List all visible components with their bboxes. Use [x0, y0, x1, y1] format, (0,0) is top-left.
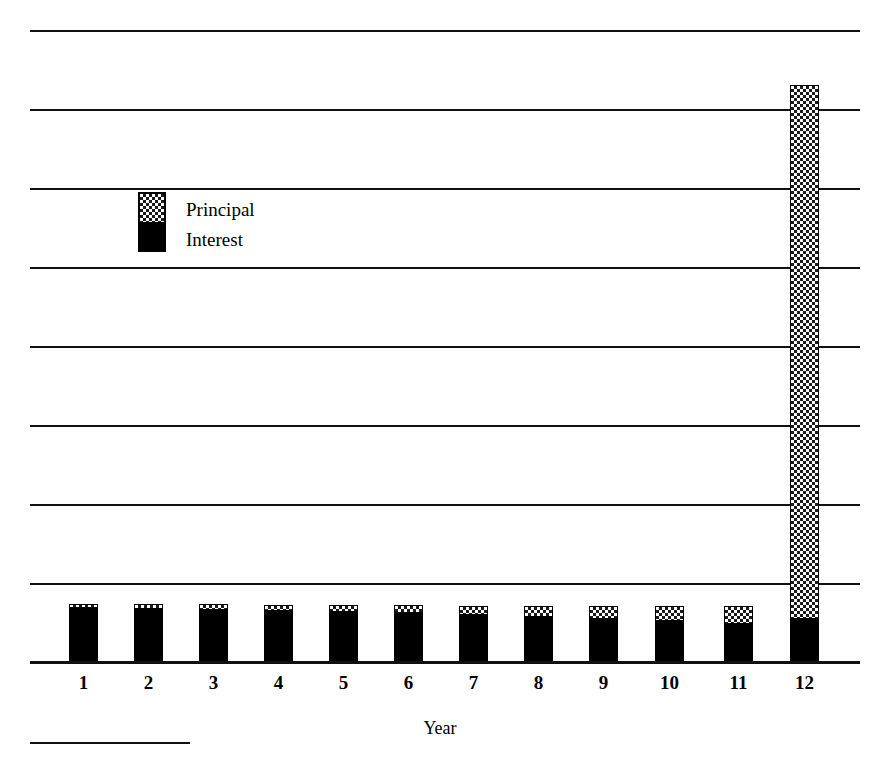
legend-swatch-principal-icon [140, 194, 164, 222]
x-tick-label-9: 9 [579, 672, 628, 694]
x-tick-label-12: 12 [780, 672, 829, 694]
x-tick-label-2: 2 [124, 672, 173, 694]
bar-segment-interest [790, 618, 819, 661]
bar-segment-interest [69, 607, 98, 661]
bar-segment-principal [655, 606, 684, 621]
bar-segment-interest [199, 609, 228, 661]
bar-year-8[interactable] [524, 606, 553, 661]
bar-year-4[interactable] [264, 605, 293, 661]
bar-segment-principal [790, 85, 819, 619]
legend-label-principal: Principal [186, 200, 255, 220]
bar-segment-interest [459, 614, 488, 661]
footnote-separator-rule [30, 742, 190, 744]
gridline-7 [30, 109, 860, 111]
bar-segment-interest [264, 610, 293, 661]
x-tick-label-11: 11 [714, 672, 763, 694]
gridline-6 [30, 188, 860, 190]
x-tick-label-7: 7 [449, 672, 498, 694]
x-tick-label-3: 3 [189, 672, 238, 694]
bar-segment-interest [329, 611, 358, 661]
chart-figure: 1 2 3 4 5 6 7 8 9 10 11 12 Year Principa… [0, 0, 888, 774]
x-tick-label-8: 8 [514, 672, 563, 694]
bar-segment-interest [524, 616, 553, 661]
bar-year-5[interactable] [329, 605, 358, 661]
legend-label-interest: Interest [186, 230, 243, 250]
bar-year-9[interactable] [589, 606, 618, 661]
gridline-3 [30, 425, 860, 427]
gridline-8 [30, 30, 860, 32]
bar-year-6[interactable] [394, 605, 423, 661]
bar-segment-interest [655, 620, 684, 661]
bar-year-2[interactable] [134, 604, 163, 661]
legend-swatch [138, 192, 166, 252]
x-axis-title: Year [370, 718, 510, 739]
bar-segment-interest [134, 608, 163, 661]
gridline-5 [30, 267, 860, 269]
gridline-4 [30, 346, 860, 348]
bar-year-3[interactable] [199, 604, 228, 661]
x-tick-label-1: 1 [59, 672, 108, 694]
bar-year-10[interactable] [655, 606, 684, 661]
x-tick-label-5: 5 [319, 672, 368, 694]
plot-area: 1 2 3 4 5 6 7 8 9 10 11 12 Year Principa… [0, 0, 888, 774]
gridline-2 [30, 504, 860, 506]
x-tick-label-4: 4 [254, 672, 303, 694]
x-tick-label-6: 6 [384, 672, 433, 694]
x-tick-label-10: 10 [645, 672, 694, 694]
bar-segment-interest [724, 623, 753, 661]
bar-year-11[interactable] [724, 606, 753, 661]
bar-segment-interest [394, 612, 423, 661]
x-axis-baseline [30, 661, 860, 664]
bar-segment-principal [724, 606, 753, 624]
bar-year-12[interactable] [790, 85, 819, 661]
bar-segment-interest [589, 618, 618, 661]
bar-year-7[interactable] [459, 606, 488, 661]
gridline-1 [30, 583, 860, 585]
bar-year-1[interactable] [69, 604, 98, 661]
